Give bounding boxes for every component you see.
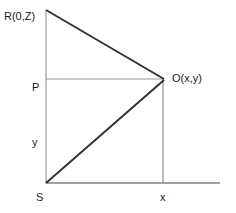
vertex-label-o: O(x,y) (172, 73, 202, 84)
segment-diagonal-s-to-o (46, 80, 164, 183)
geometry-diagram: R(0,Z) O(x,y) P y S x (0, 0, 236, 213)
vertex-label-s: S (36, 192, 43, 203)
side-label-x: x (160, 192, 166, 203)
vertex-label-r: R(0,Z) (4, 11, 35, 22)
vertex-label-p: P (32, 82, 39, 93)
diagram-canvas (0, 0, 236, 213)
segment-hypotenuse-r-to-o (46, 10, 164, 79)
side-label-y: y (32, 137, 38, 148)
